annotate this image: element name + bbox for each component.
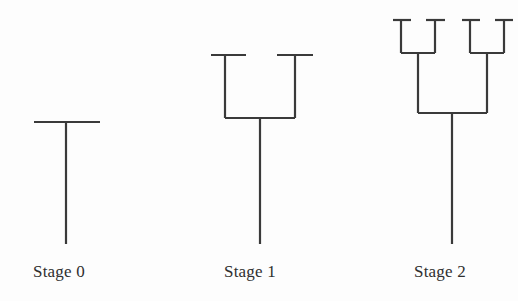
stage-label-0: Stage 0 xyxy=(33,263,85,280)
stage-label-2: Stage 2 xyxy=(414,263,466,280)
figure-root: Stage 0Stage 1Stage 2 xyxy=(0,0,518,301)
stage-1-tree xyxy=(211,55,313,244)
stage-label-1: Stage 1 xyxy=(224,263,276,280)
tree-diagram-canvas xyxy=(0,0,518,301)
stage-2-tree xyxy=(393,20,513,244)
stages-group xyxy=(34,20,513,244)
stage-0-tree xyxy=(34,122,100,244)
